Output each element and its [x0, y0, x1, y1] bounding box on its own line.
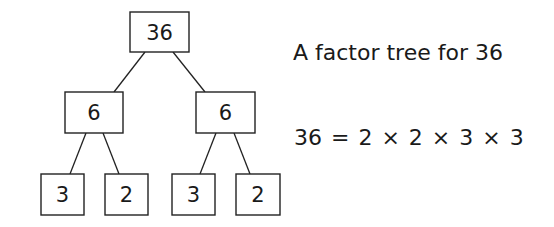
edge-right-leaf3: [200, 133, 216, 174]
tree-leaf-4: 2: [236, 174, 280, 215]
node-label: 2: [120, 183, 133, 207]
node-label: 3: [187, 183, 200, 207]
node-label: 6: [219, 101, 232, 125]
edge-left-leaf1: [70, 133, 86, 174]
node-label: 2: [251, 183, 264, 207]
factor-tree: 36 6 6 3 2 3 2: [0, 0, 290, 227]
diagram-caption: A factor tree for 36: [293, 40, 503, 65]
edge-root-right: [173, 52, 205, 92]
tree-leaf-1: 3: [41, 174, 84, 215]
edge-right-leaf4: [234, 133, 250, 174]
tree-leaf-2: 2: [105, 174, 148, 215]
node-label: 6: [87, 101, 100, 125]
factorization-equation: 36 = 2 × 2 × 3 × 3: [294, 125, 524, 150]
edge-left-leaf2: [103, 133, 119, 174]
node-label: 36: [146, 21, 173, 45]
tree-leaf-3: 3: [172, 174, 215, 215]
node-label: 3: [56, 183, 69, 207]
tree-node-root: 36: [130, 12, 189, 52]
tree-node-left-6: 6: [65, 92, 123, 133]
tree-node-right-6: 6: [196, 92, 255, 133]
edge-root-left: [114, 52, 145, 92]
